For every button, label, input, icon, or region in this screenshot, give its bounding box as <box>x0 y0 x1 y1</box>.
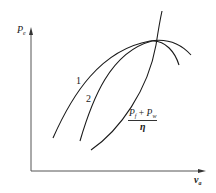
curve-1-label: 1 <box>76 76 81 86</box>
resistance-power-label: Pf + Pw η <box>128 109 157 132</box>
fraction-denominator: η <box>140 121 146 132</box>
y-axis-arrow-icon <box>29 27 33 35</box>
curve-2-label: 2 <box>86 94 91 104</box>
x-axis-arrow-icon <box>198 169 206 173</box>
x-axis-label: va <box>194 175 201 186</box>
curve-1 <box>53 40 191 138</box>
y-axis-subscript: e <box>23 30 26 36</box>
diagram-canvas <box>0 0 216 193</box>
numerator-sub2: w <box>152 113 156 119</box>
x-axis-subscript: a <box>198 180 201 186</box>
fraction-numerator: Pf + Pw <box>128 109 157 121</box>
numerator-plus: + <box>136 108 146 118</box>
y-axis-label: Pe <box>17 25 26 36</box>
